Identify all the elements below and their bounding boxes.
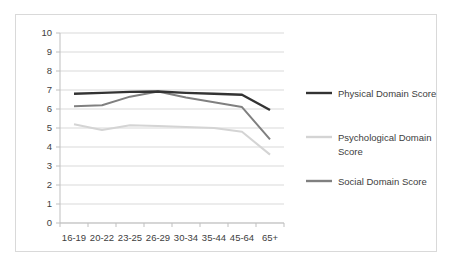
- y-axis-label: 8: [47, 65, 52, 76]
- x-axis-label: 20-22: [90, 232, 114, 243]
- x-axis-label: 23-25: [118, 232, 142, 243]
- y-axis-label: 7: [47, 84, 52, 95]
- legend: Physical Domain ScorePsychological Domai…: [306, 88, 436, 187]
- series-line-psychological-domain-score: [74, 124, 270, 154]
- legend-label-social-domain-score: Social Domain Score: [338, 176, 427, 187]
- y-axis-label: 0: [47, 217, 52, 228]
- series-group: [74, 92, 270, 155]
- legend-label-physical-domain-score: Physical Domain Score: [338, 88, 436, 99]
- legend-label-psychological-domain-score: Psychological Domain: [338, 132, 431, 143]
- x-axis-label: 45-64: [230, 232, 254, 243]
- y-axis-label: 10: [41, 27, 52, 38]
- y-axis-label: 9: [47, 46, 52, 57]
- y-axis-label: 2: [47, 179, 52, 190]
- x-axis-labels: 16-1920-2223-2526-2930-3435-4445-6465+: [60, 223, 284, 243]
- legend-label-psychological-domain-score: Score: [338, 146, 363, 157]
- x-axis-label: 35-44: [202, 232, 226, 243]
- line-chart: 01234567891016-1920-2223-2526-2930-3435-…: [16, 15, 438, 253]
- chart-container: 01234567891016-1920-2223-2526-2930-3435-…: [15, 14, 437, 252]
- x-axis-label: 26-29: [146, 232, 170, 243]
- y-axis-label: 5: [47, 122, 52, 133]
- x-axis-label: 30-34: [174, 232, 198, 243]
- y-axis-label: 6: [47, 103, 52, 114]
- y-axis-label: 4: [47, 141, 52, 152]
- x-axis-label: 65+: [262, 232, 279, 243]
- x-axis-label: 16-19: [62, 232, 86, 243]
- plot-area-wrapper: 01234567891016-1920-2223-2526-2930-3435-…: [16, 15, 436, 251]
- y-axis-label: 3: [47, 160, 52, 171]
- y-axis-label: 1: [47, 198, 52, 209]
- y-gridlines: 012345678910: [41, 27, 284, 228]
